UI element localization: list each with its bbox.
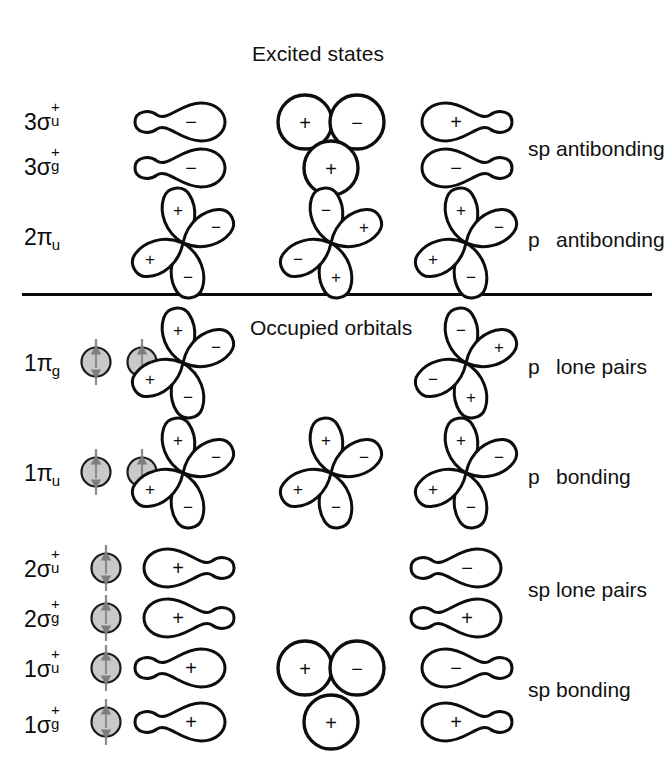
orbital-artwork: − + − + − + − +	[0, 0, 666, 760]
svg-text:−: −	[331, 498, 341, 517]
svg-text:−: −	[351, 112, 363, 134]
orbital-3sigma-u-plus-right: +	[422, 103, 512, 141]
svg-text:+: +	[450, 111, 462, 133]
svg-text:−: −	[321, 201, 331, 220]
svg-text:−: −	[466, 498, 476, 517]
svg-text:−: −	[185, 111, 197, 133]
svg-text:+: +	[450, 711, 462, 733]
svg-text:−: −	[466, 268, 476, 287]
svg-text:+: +	[325, 712, 337, 734]
orbital-3sigma-g-plus-left: −	[135, 149, 225, 187]
svg-text:+: +	[456, 431, 466, 450]
electrons-2sigma-g-plus	[92, 595, 121, 641]
svg-text:+: +	[456, 201, 466, 220]
orbital-2sigma-u-plus-left: +	[144, 549, 234, 587]
orbital-2sigma-u-plus-right: −	[411, 549, 501, 587]
svg-text:+: +	[173, 201, 183, 220]
svg-text:−: −	[183, 388, 193, 407]
orbital-2pi-u-left: + − + −	[127, 186, 240, 300]
svg-text:+: +	[461, 607, 473, 629]
orbital-2pi-u-center: − + − +	[275, 186, 388, 300]
orbital-1sigma-u-plus-right: −	[422, 649, 512, 687]
orbital-3sigma-u-plus-left: −	[135, 103, 225, 141]
svg-text:+: +	[185, 711, 197, 733]
svg-text:+: +	[428, 480, 438, 499]
svg-text:−: −	[211, 218, 221, 237]
svg-text:+: +	[325, 158, 337, 180]
svg-text:−: −	[183, 268, 193, 287]
orbital-1pi-u-center: + − + −	[275, 416, 388, 530]
svg-text:−: −	[461, 557, 473, 579]
svg-text:−: −	[450, 157, 462, 179]
svg-text:−: −	[359, 448, 369, 467]
svg-text:+: +	[145, 370, 155, 389]
svg-text:−: −	[450, 657, 462, 679]
svg-text:+: +	[172, 607, 184, 629]
svg-text:−: −	[456, 321, 466, 340]
svg-text:+: +	[299, 112, 311, 134]
svg-text:+: +	[299, 658, 311, 680]
orbital-2sigma-g-plus-right: +	[411, 599, 501, 637]
orbital-1sigma-g-plus-center: +	[304, 695, 358, 749]
svg-text:−: −	[183, 498, 193, 517]
svg-text:−: −	[293, 250, 303, 269]
svg-text:+: +	[173, 431, 183, 450]
orbital-1sigma-u-plus-left: +	[135, 649, 225, 687]
svg-text:+: +	[321, 431, 331, 450]
svg-text:−: −	[494, 218, 504, 237]
orbital-2sigma-g-plus-left: +	[144, 599, 234, 637]
svg-text:+: +	[466, 388, 476, 407]
orbital-1pi-u-right: + − + −	[410, 416, 523, 530]
svg-text:−: −	[185, 157, 197, 179]
svg-text:+: +	[145, 480, 155, 499]
orbital-3sigma-g-plus-center: +	[304, 141, 358, 195]
orbital-1sigma-g-plus-left: +	[135, 703, 225, 741]
orbital-1sigma-u-plus-center: + −	[278, 641, 384, 695]
svg-text:+: +	[185, 657, 197, 679]
svg-text:+: +	[172, 557, 184, 579]
orbital-1sigma-g-plus-right: +	[422, 703, 512, 741]
svg-text:−: −	[428, 370, 438, 389]
orbital-3sigma-g-plus-right: −	[422, 149, 512, 187]
svg-text:−: −	[351, 658, 363, 680]
svg-text:−: −	[211, 448, 221, 467]
svg-text:+: +	[428, 250, 438, 269]
svg-text:+: +	[293, 480, 303, 499]
orbital-1pi-g-right: − + − +	[410, 306, 523, 420]
svg-text:+: +	[145, 250, 155, 269]
svg-text:−: −	[211, 338, 221, 357]
svg-text:+: +	[173, 321, 183, 340]
svg-text:+: +	[494, 338, 504, 357]
electrons-1sigma-g-plus	[92, 699, 121, 745]
mo-diagram-figure: Excited states Occupied orbitals 3σ+u 3σ…	[0, 0, 666, 760]
svg-text:−: −	[494, 448, 504, 467]
orbital-2pi-u-right: + − + −	[410, 186, 523, 300]
electrons-2sigma-u-plus	[92, 545, 121, 591]
svg-text:+: +	[331, 268, 341, 287]
electrons-1sigma-u-plus	[92, 645, 121, 691]
svg-text:+: +	[359, 218, 369, 237]
